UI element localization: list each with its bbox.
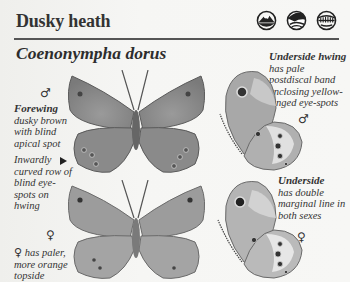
common-name-heading: Dusky heath: [16, 11, 110, 32]
forewing-note-text: dusky brown with blind apical spot: [14, 115, 67, 149]
mountain-habitat-icon: [256, 10, 277, 31]
underside-hwing-note-title: Underside hwing: [269, 51, 347, 63]
male-upperside-butterfly-illustration: [64, 70, 209, 175]
female-symbol: ♀: [46, 228, 55, 242]
female-note-symbol: ♀: [14, 246, 22, 259]
scrub-meadow-habitat-icon: [316, 10, 337, 31]
female-upperside-butterfly-illustration: [64, 180, 209, 282]
male-underside-butterfly-illustration: [214, 66, 304, 176]
field-guide-page: Dusky heath Coenonympha dorus ♂ Forewing…: [0, 0, 350, 282]
female-note-text: has paler, more orange topside: [14, 247, 68, 281]
title-divider: [14, 38, 339, 40]
latin-name-heading: Coenonympha dorus: [16, 43, 166, 64]
female-underside-butterfly-illustration: [214, 176, 304, 282]
hillside-grassland-habitat-icon: [286, 10, 307, 31]
habitat-icons: [256, 10, 337, 31]
male-symbol: ♂: [40, 86, 51, 100]
